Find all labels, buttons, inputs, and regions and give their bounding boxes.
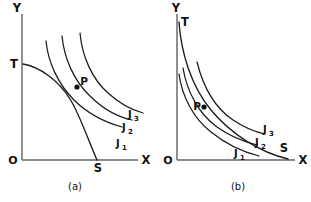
- panel-a-tangency-point-label: P: [80, 75, 88, 87]
- panel-b-curve-label-j2: J: [254, 137, 259, 148]
- panel-a-tangency-point-dot: [74, 84, 79, 89]
- panel-a-indifference-curve-j2: [62, 36, 132, 120]
- panel-b-origin-label: O: [163, 154, 172, 167]
- panel-a-curve-label-j2: J: [121, 122, 126, 133]
- panel-a-indifference-curve-j3: [80, 33, 143, 113]
- panel-a-curve-label-j1-subscript: 1: [122, 144, 127, 152]
- panel-b-point-s-label: S: [280, 141, 288, 155]
- panel-b-tangency-point-label: P: [193, 100, 201, 112]
- panel-b-transformation-curve-ts: [179, 22, 288, 159]
- panel-a-origin-label: O: [8, 154, 17, 167]
- panel-a-curve-label-j3-subscript: 3: [134, 115, 139, 123]
- panel-a-y-axis-label: Y: [12, 1, 22, 15]
- panel-b-x-axis-label: X: [299, 153, 308, 167]
- panel-b-indifference-curve-j3: [197, 62, 265, 134]
- panel-a-point-t-label: T: [10, 57, 18, 71]
- panel-b-curve-label-j1-subscript: 1: [240, 154, 245, 162]
- panel-b-y-axis-label: Y: [171, 1, 181, 15]
- panel-b-curve-label-j1: J: [233, 148, 238, 159]
- panel-b-diagram: Y X O T S P J 3 J 2 J 1: [155, 0, 311, 178]
- panel-a-point-s-label: S: [94, 161, 102, 175]
- panel-b-curve-label-j2-subscript: 2: [261, 143, 266, 151]
- panel-a-curve-label-j2-subscript: 2: [128, 128, 133, 136]
- panel-a-x-axis-label: X: [142, 153, 151, 167]
- panel-b-indifference-curve-j1: [179, 74, 259, 156]
- panel-b-point-t-label: T: [181, 15, 189, 29]
- panel-b-caption: (b): [208, 181, 268, 192]
- panel-a-diagram: Y X O T S P J 3 J 2 J 1: [0, 0, 155, 178]
- panel-a-caption: (a): [45, 181, 105, 192]
- figure-root: Y X O T S P J 3 J 2 J 1 Y X O T S: [0, 0, 311, 202]
- panel-b-curve-label-j3-subscript: 3: [269, 130, 274, 138]
- panel-b-curve-label-j3: J: [262, 124, 267, 135]
- panel-a-curve-label-j1: J: [115, 138, 120, 149]
- panel-b-tangency-point-dot: [201, 104, 206, 109]
- panel-a-curve-label-j3: J: [127, 109, 132, 120]
